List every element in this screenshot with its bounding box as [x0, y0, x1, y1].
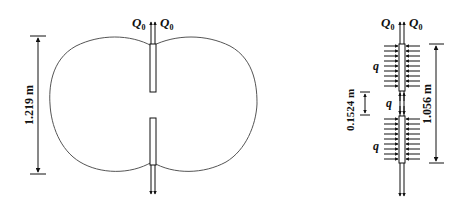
screen-dimension-label: 1.056 m	[420, 84, 434, 124]
diagram-canvas: Q0 Q0 1.219 m	[0, 0, 460, 202]
upper-well-screen	[150, 44, 156, 92]
lower-screen	[399, 116, 405, 163]
flow-label-q0-right: Q0	[409, 15, 422, 32]
gap-dimension-label: 0.1524 m	[344, 89, 356, 131]
upper-screen	[399, 44, 405, 91]
flux-label-upper: q	[373, 59, 379, 73]
left-figure: Q0 Q0 1.219 m	[22, 15, 257, 194]
flux-label-lower: q	[373, 139, 379, 153]
flow-label-q0-right: Q0	[160, 15, 173, 32]
right-figure: Q0 Q0 q q q 0.1524 m 1.056 m	[344, 15, 444, 196]
flow-label-q0-left: Q0	[381, 15, 394, 32]
flow-label-q0-left: Q0	[132, 15, 145, 32]
height-dimension-label: 1.219 m	[22, 85, 36, 125]
flux-label-gap: q	[386, 96, 392, 110]
lower-well-screen	[150, 118, 156, 165]
